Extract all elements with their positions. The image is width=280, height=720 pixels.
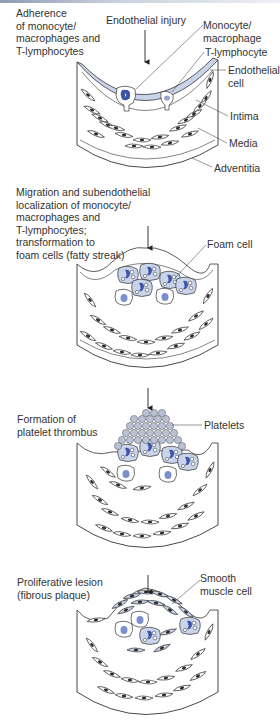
stage-3-vessel: [77, 388, 218, 548]
stage-1-vessel: [77, 25, 228, 168]
stage-2-vessel: [77, 226, 218, 368]
diagram-drawing: [0, 0, 280, 720]
stage-4-vessel: [77, 575, 218, 715]
